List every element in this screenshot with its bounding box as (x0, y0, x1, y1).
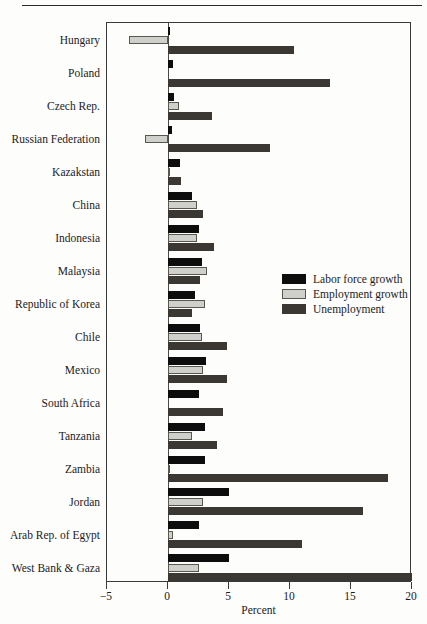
bar (168, 554, 229, 562)
x-tick-label: 15 (344, 590, 356, 602)
x-tick-label: −5 (100, 590, 112, 602)
bar (168, 333, 202, 341)
bar (168, 192, 192, 200)
x-tick (167, 582, 168, 589)
bar (168, 564, 199, 572)
bar (129, 36, 168, 44)
bar (168, 159, 180, 167)
category-label: Indonesia (0, 232, 100, 244)
bar (168, 267, 207, 275)
x-tick (228, 582, 229, 589)
legend-item-labor-force-growth: Labor force growth (282, 271, 422, 286)
bar (168, 390, 199, 398)
category-label: Tanzania (0, 430, 100, 442)
bar (168, 300, 205, 308)
top-rule (22, 5, 422, 6)
category-label: Kazakstan (0, 166, 100, 178)
legend-item-employment-growth: Employment growth (282, 286, 422, 301)
bar (168, 177, 181, 185)
x-tick-label: 20 (405, 590, 417, 602)
legend-item-unemployment: Unemployment (282, 301, 422, 316)
x-tick-label: 0 (164, 590, 170, 602)
category-label: Mexico (0, 364, 100, 376)
bar (168, 210, 203, 218)
bar (168, 79, 330, 87)
bar (168, 234, 197, 242)
category-label: Russian Federation (0, 133, 100, 145)
bar (168, 46, 294, 54)
bar (168, 27, 170, 35)
bar (168, 225, 199, 233)
bar (168, 540, 302, 548)
bar (168, 488, 229, 496)
bar (168, 531, 173, 539)
category-label: Republic of Korea (0, 298, 100, 310)
x-axis-title: Percent (106, 604, 411, 616)
x-axis: −505101520 (106, 582, 411, 590)
category-label: Zambia (0, 463, 100, 475)
legend-swatch-employment-growth (282, 289, 306, 299)
bar (168, 366, 203, 374)
x-tick (350, 582, 351, 589)
plot-area: Labor force growth Employment growth Une… (106, 22, 411, 582)
category-label: Hungary (0, 34, 100, 46)
category-axis-labels: HungaryPolandCzech Rep.Russian Federatio… (0, 22, 100, 582)
category-label: Malaysia (0, 265, 100, 277)
bar (168, 498, 203, 506)
bar (168, 243, 214, 251)
category-label: Chile (0, 331, 100, 343)
x-tick (411, 582, 412, 589)
bar (168, 375, 227, 383)
bar (168, 291, 195, 299)
bar (168, 357, 206, 365)
bar (168, 456, 205, 464)
bar (168, 112, 212, 120)
bar (168, 276, 200, 284)
bar (168, 168, 170, 176)
bar (168, 144, 270, 152)
bar (168, 93, 174, 101)
bar (168, 342, 227, 350)
bar (168, 126, 172, 134)
category-label: Poland (0, 67, 100, 79)
bar (168, 521, 199, 529)
x-tick (106, 582, 107, 589)
bar (145, 135, 168, 143)
bar (168, 102, 179, 110)
legend-label-labor-force-growth: Labor force growth (313, 273, 402, 285)
category-label: Czech Rep. (0, 100, 100, 112)
legend-label-unemployment: Unemployment (313, 303, 385, 315)
x-tick-label: 5 (225, 590, 231, 602)
figure: HungaryPolandCzech Rep.Russian Federatio… (0, 0, 427, 624)
category-label: Arab Rep. of Egypt (0, 529, 100, 541)
legend-label-employment-growth: Employment growth (313, 288, 408, 300)
category-label: South Africa (0, 397, 100, 409)
bar (168, 465, 170, 473)
category-label: China (0, 199, 100, 211)
legend-swatch-labor-force-growth (282, 274, 306, 284)
legend: Labor force growth Employment growth Une… (282, 271, 422, 316)
category-label: West Bank & Gaza (0, 562, 100, 574)
bar (168, 408, 223, 416)
legend-swatch-unemployment (282, 304, 306, 314)
bar (168, 324, 200, 332)
bar (168, 201, 197, 209)
x-tick (289, 582, 290, 589)
bar (168, 423, 205, 431)
bar (168, 507, 363, 515)
bar (168, 474, 388, 482)
bar (168, 258, 202, 266)
bar (168, 60, 173, 68)
bar (168, 441, 217, 449)
category-label: Jordan (0, 496, 100, 508)
x-tick-label: 10 (283, 590, 295, 602)
bar (168, 432, 192, 440)
bar (168, 309, 192, 317)
bar (168, 573, 412, 581)
